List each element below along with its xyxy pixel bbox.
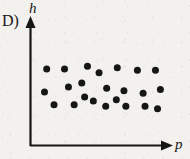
data-point <box>84 63 91 70</box>
data-point <box>43 65 50 72</box>
x-axis-label: p <box>175 137 183 152</box>
data-point <box>71 101 78 108</box>
data-point <box>51 101 58 108</box>
data-point <box>102 103 109 110</box>
data-point <box>140 90 147 97</box>
data-point <box>142 103 149 110</box>
data-point <box>154 105 161 112</box>
y-axis-arrowhead <box>26 16 36 28</box>
data-point <box>113 96 120 103</box>
data-point-group <box>41 63 164 112</box>
data-point <box>152 67 159 74</box>
data-point <box>103 85 110 92</box>
data-point <box>65 83 72 90</box>
data-point <box>41 88 48 95</box>
data-point <box>122 103 129 110</box>
data-point <box>134 67 141 74</box>
y-axis-label: h <box>29 1 37 16</box>
multiple-choice-option-figure: D) h p <box>0 0 190 159</box>
data-point <box>120 87 127 94</box>
data-point <box>78 80 85 87</box>
data-point <box>96 69 103 76</box>
data-point <box>90 98 97 105</box>
data-point <box>114 64 121 71</box>
option-letter-label: D) <box>2 13 19 29</box>
x-axis-line-group <box>30 141 173 151</box>
scatter-plot-graphic <box>0 0 190 159</box>
x-axis-arrowhead <box>161 141 173 151</box>
data-point <box>61 65 68 72</box>
y-axis-line-group <box>26 16 36 146</box>
data-point <box>157 86 164 93</box>
data-point <box>81 94 88 101</box>
